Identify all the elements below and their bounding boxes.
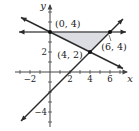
vertex-label: (0, 4): [55, 18, 81, 29]
y-axis-arrow-icon: [48, 4, 53, 10]
vertex-label: (4, 2): [57, 49, 83, 60]
y-tick-label: 2: [42, 47, 47, 57]
x-axis-label: x: [127, 73, 133, 84]
vertex-point: [48, 30, 52, 34]
vertex-point: [88, 50, 92, 54]
vertex-label: (6, 4): [101, 41, 127, 52]
y-axis-label: y: [39, 0, 46, 11]
line-arrow-icon: [121, 30, 127, 35]
y-tick-label: −4: [34, 107, 47, 117]
x-tick-label: −2: [24, 74, 37, 84]
x-tick-label: 4: [87, 74, 92, 84]
line-arrow-icon: [19, 30, 25, 35]
x-tick-label: 2: [67, 74, 72, 84]
coordinate-plane: −22462−4xy(0, 4)(4, 2)(6, 4): [0, 0, 139, 131]
x-tick-label: 6: [107, 74, 112, 84]
vertex-point: [108, 30, 112, 34]
